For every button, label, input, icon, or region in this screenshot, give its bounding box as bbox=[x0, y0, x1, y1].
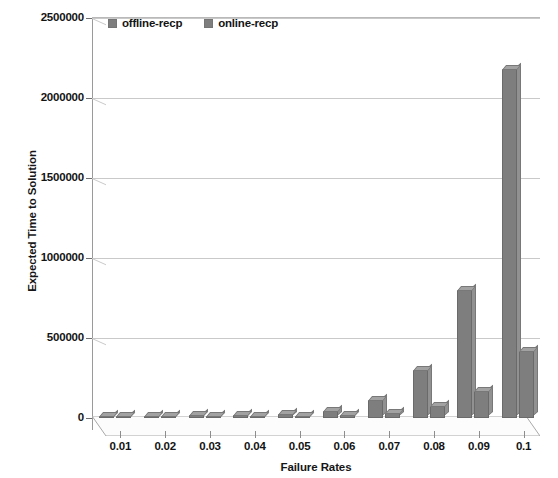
bar-group bbox=[450, 12, 495, 436]
bar-offline-recp-0.01[interactable] bbox=[99, 416, 114, 419]
y-tick-label: 500000 bbox=[10, 331, 84, 343]
bar-series-container bbox=[92, 12, 540, 436]
x-tick-label-0.04: 0.04 bbox=[232, 440, 278, 452]
bar-front-face bbox=[368, 400, 383, 418]
bar-chart-figure: Expected Time to Solution 05000001000000… bbox=[0, 0, 558, 478]
bar-front-face bbox=[413, 370, 428, 418]
chart-legend: offline-recponline-recp bbox=[108, 17, 278, 29]
x-tick-mark bbox=[524, 431, 525, 438]
bar-online-recp-0.08[interactable] bbox=[430, 406, 445, 418]
x-tick-mark bbox=[210, 431, 211, 438]
bar-online-recp-0.06[interactable] bbox=[340, 415, 355, 418]
x-tick-label-0.06: 0.06 bbox=[321, 440, 367, 452]
bar-group bbox=[406, 12, 451, 436]
x-tick-label-0.09: 0.09 bbox=[456, 440, 502, 452]
x-tick-mark bbox=[344, 431, 345, 438]
bar-front-face bbox=[457, 290, 472, 418]
y-axis-tick-labels: 05000001000000150000020000002500000 bbox=[8, 0, 84, 478]
bar-top-face bbox=[295, 412, 314, 417]
bar-offline-recp-0.1[interactable] bbox=[502, 69, 517, 418]
x-tick-label-0.1: 0.1 bbox=[501, 440, 547, 452]
bar-front-face bbox=[519, 351, 534, 418]
bar-group bbox=[361, 12, 406, 436]
legend-swatch-icon bbox=[204, 19, 213, 28]
y-tick-label: 1500000 bbox=[10, 171, 84, 183]
bar-online-recp-0.1[interactable] bbox=[519, 351, 534, 418]
bar-top-face bbox=[116, 412, 135, 417]
bar-group bbox=[182, 12, 227, 436]
y-tick-label: 2500000 bbox=[10, 11, 84, 23]
y-tick-label: 1000000 bbox=[10, 251, 84, 263]
x-tick-label-0.02: 0.02 bbox=[142, 440, 188, 452]
bar-online-recp-0.04[interactable] bbox=[250, 416, 265, 419]
bar-front-face bbox=[430, 406, 445, 418]
x-tick-label-0.01: 0.01 bbox=[97, 440, 143, 452]
bar-group bbox=[495, 12, 540, 436]
bar-group bbox=[271, 12, 316, 436]
bar-group bbox=[226, 12, 271, 436]
bar-top-face bbox=[206, 412, 225, 417]
bar-top-face bbox=[278, 410, 297, 415]
x-tick-label-0.07: 0.07 bbox=[366, 440, 412, 452]
bar-group bbox=[316, 12, 361, 436]
bar-offline-recp-0.04[interactable] bbox=[233, 415, 248, 418]
bar-offline-recp-0.08[interactable] bbox=[413, 370, 428, 418]
x-tick-label-0.05: 0.05 bbox=[277, 440, 323, 452]
x-tick-label-0.08: 0.08 bbox=[411, 440, 457, 452]
legend-swatch-icon bbox=[108, 19, 117, 28]
legend-item-online-recp[interactable]: online-recp bbox=[204, 17, 278, 29]
bar-online-recp-0.03[interactable] bbox=[206, 416, 221, 419]
x-tick-mark bbox=[120, 431, 121, 438]
bar-top-face bbox=[340, 411, 359, 416]
x-tick-mark bbox=[300, 431, 301, 438]
x-tick-mark bbox=[165, 431, 166, 438]
bar-front-face bbox=[502, 69, 517, 418]
bar-online-recp-0.02[interactable] bbox=[161, 416, 176, 419]
legend-label: offline-recp bbox=[122, 17, 182, 29]
y-tick-label: 0 bbox=[10, 411, 84, 423]
x-tick-mark bbox=[255, 431, 256, 438]
legend-label: online-recp bbox=[218, 17, 278, 29]
bar-offline-recp-0.07[interactable] bbox=[368, 400, 383, 418]
bar-top-face bbox=[161, 412, 180, 417]
bar-offline-recp-0.09[interactable] bbox=[457, 290, 472, 418]
bar-offline-recp-0.05[interactable] bbox=[278, 414, 293, 418]
bar-top-face bbox=[250, 412, 269, 417]
bar-online-recp-0.07[interactable] bbox=[385, 413, 400, 418]
bar-online-recp-0.05[interactable] bbox=[295, 416, 310, 419]
bar-offline-recp-0.02[interactable] bbox=[144, 416, 159, 419]
bar-offline-recp-0.03[interactable] bbox=[189, 415, 204, 418]
bar-offline-recp-0.06[interactable] bbox=[323, 411, 338, 418]
x-tick-mark bbox=[389, 431, 390, 438]
x-tick-mark bbox=[479, 431, 480, 438]
bar-group bbox=[92, 12, 137, 436]
plot-area bbox=[92, 12, 540, 436]
x-tick-mark bbox=[434, 431, 435, 438]
y-tick-label: 2000000 bbox=[10, 91, 84, 103]
x-axis-tick-labels: 0.010.020.030.040.050.060.070.080.090.1 bbox=[92, 440, 540, 458]
bar-group bbox=[137, 12, 182, 436]
bar-online-recp-0.01[interactable] bbox=[116, 416, 131, 419]
x-axis-title: Failure Rates bbox=[92, 461, 540, 473]
legend-item-offline-recp[interactable]: offline-recp bbox=[108, 17, 182, 29]
bar-front-face bbox=[474, 391, 489, 418]
x-tick-label-0.03: 0.03 bbox=[187, 440, 233, 452]
bar-online-recp-0.09[interactable] bbox=[474, 391, 489, 418]
